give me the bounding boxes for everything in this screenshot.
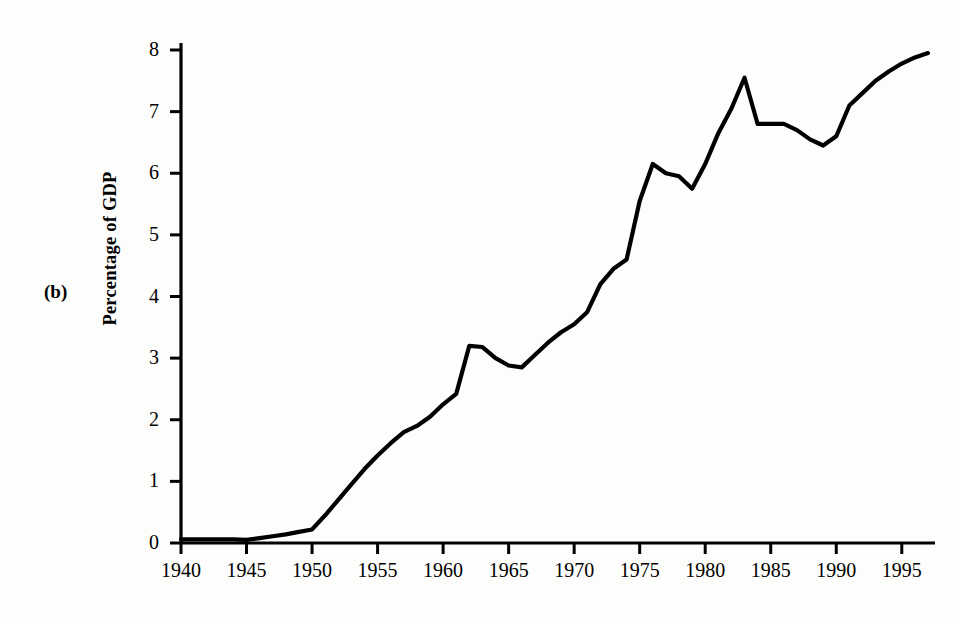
y-axis-tick-label: 0: [133, 532, 159, 552]
x-axis-tick-label: 1990: [801, 559, 871, 581]
x-axis-tick-label: 1945: [212, 559, 282, 581]
axes: [181, 43, 935, 543]
data-series-group: [181, 53, 928, 540]
figure-panel: (b) Percentage of GDP 012345678 19401945…: [0, 0, 960, 623]
x-axis-tick-label: 1980: [670, 559, 740, 581]
data-line-series: [181, 53, 928, 540]
y-axis-tick-label: 2: [133, 409, 159, 429]
line-chart-plot: [0, 0, 960, 623]
y-axis-tick-label: 4: [133, 286, 159, 306]
x-axis-tick-label: 1950: [277, 559, 347, 581]
x-axis-tick-label: 1965: [474, 559, 544, 581]
y-axis-tick-label: 3: [133, 347, 159, 367]
x-axis-tick-label: 1955: [343, 559, 413, 581]
x-axis-tick-label: 1960: [408, 559, 478, 581]
y-axis-tick-label: 5: [133, 224, 159, 244]
x-axis-tick-label: 1975: [605, 559, 675, 581]
y-axis-ticks: [170, 50, 181, 543]
y-axis-tick-label: 6: [133, 162, 159, 182]
x-axis-tick-label: 1970: [539, 559, 609, 581]
y-axis-tick-label: 7: [133, 101, 159, 121]
x-axis-tick-label: 1995: [867, 559, 937, 581]
x-axis-tick-label: 1985: [736, 559, 806, 581]
y-axis-tick-label: 8: [133, 39, 159, 59]
x-axis-tick-label: 1940: [146, 559, 216, 581]
y-axis-tick-label: 1: [133, 470, 159, 490]
x-axis-ticks: [181, 543, 902, 554]
